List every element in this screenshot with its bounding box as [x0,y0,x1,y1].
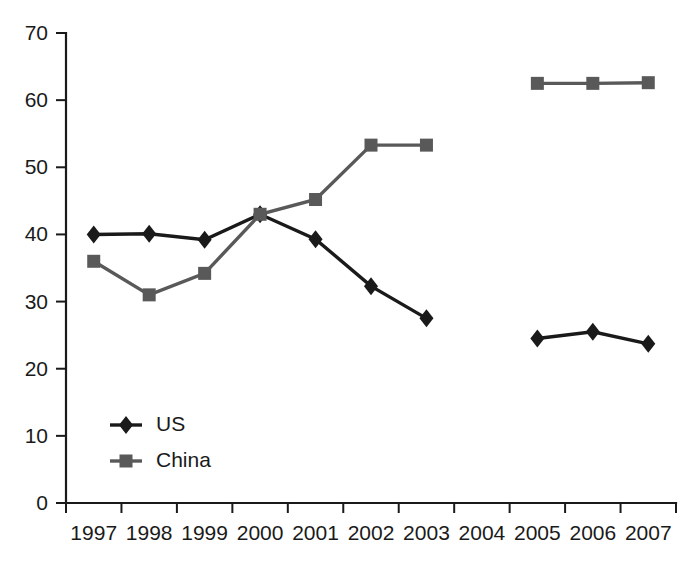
legend-item-china: China [110,448,211,471]
data-point-us [530,330,544,348]
chart-legend: USChina [110,412,211,471]
y-tick-label: 0 [36,491,48,514]
data-point-china [642,76,655,89]
x-tick-label: 1999 [181,521,228,544]
data-point-china [198,267,211,280]
y-tick-label: 40 [25,222,48,245]
line-chart: 010203040506070 199719981999200020012002… [0,0,691,561]
data-point-us [87,225,101,243]
data-point-us [586,323,600,341]
x-tick-label: 2001 [292,521,339,544]
data-point-china [420,139,433,152]
data-point-china [365,139,378,152]
series-line-us [94,214,427,318]
data-point-us [142,225,156,243]
x-tick-label: 2003 [403,521,450,544]
x-tick-label: 2005 [514,521,561,544]
x-tick-label: 2000 [237,521,284,544]
data-point-china [143,288,156,301]
legend-label: US [156,412,185,435]
x-tick-label: 2006 [569,521,616,544]
chart-canvas: 010203040506070 199719981999200020012002… [0,0,691,561]
x-tick-label: 2002 [348,521,395,544]
data-point-china [87,255,100,268]
x-tick-label: 2007 [625,521,672,544]
y-tick-label: 60 [25,88,48,111]
data-point-china [309,193,322,206]
data-point-us [198,231,212,249]
y-axis-ticks: 010203040506070 [25,21,66,514]
y-tick-label: 20 [25,357,48,380]
legend-marker-diamond [119,416,133,434]
legend-marker-square [120,455,133,468]
legend-item-us: US [110,412,185,435]
x-tick-label: 1998 [126,521,173,544]
data-point-china [586,77,599,90]
data-point-us [419,309,433,327]
y-tick-label: 50 [25,155,48,178]
legend-label: China [156,448,211,471]
y-tick-label: 10 [25,424,48,447]
series-layer [87,76,656,353]
x-axis-ticks: 1997199819992000200120022003200420052006… [66,503,676,544]
series-china [87,76,655,301]
data-point-china [531,77,544,90]
y-tick-label: 30 [25,290,48,313]
series-us [87,205,656,353]
x-tick-label: 2004 [459,521,506,544]
data-point-china [254,208,267,221]
x-tick-label: 1997 [70,521,117,544]
y-tick-label: 70 [25,21,48,44]
data-point-us [641,335,655,353]
